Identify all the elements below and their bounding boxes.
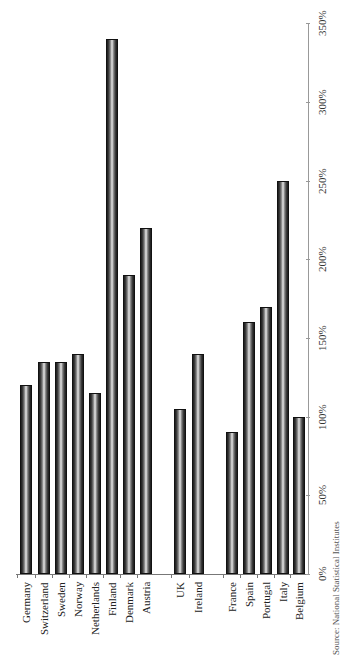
x-tick	[240, 574, 241, 578]
bar-uk	[174, 409, 186, 574]
x-tick	[35, 574, 36, 578]
bar-belgium	[293, 417, 305, 574]
bar-sweden	[55, 362, 67, 574]
x-tick	[223, 574, 224, 578]
x-tick	[290, 574, 291, 578]
category-label: Denmark	[123, 582, 135, 623]
y-tick	[306, 259, 310, 260]
bar-portugal	[260, 307, 272, 574]
bar-finland	[106, 39, 118, 574]
x-tick	[52, 574, 53, 578]
category-label: Norway	[72, 582, 84, 617]
bar-switzerland	[38, 362, 50, 574]
x-tick	[69, 574, 70, 578]
category-label: Switzerland	[38, 582, 50, 635]
x-tick	[17, 574, 18, 578]
category-label: Sweden	[55, 582, 67, 617]
bar-ireland	[192, 354, 204, 574]
y-tick	[306, 23, 310, 24]
y-tick	[306, 574, 310, 575]
y-tick-label: 350%	[316, 11, 328, 37]
y-tick-label: 250%	[316, 168, 328, 194]
bar-germany	[20, 385, 32, 574]
y-tick	[306, 181, 310, 182]
y-tick-label: 200%	[316, 247, 328, 273]
category-label: Portugal	[260, 582, 272, 619]
x-tick	[274, 574, 275, 578]
y-tick-label: 150%	[316, 325, 328, 351]
x-tick	[189, 574, 190, 578]
y-tick-label: 50%	[316, 485, 328, 505]
category-label: Belgium	[293, 582, 305, 620]
x-tick	[137, 574, 138, 578]
bar-spain	[243, 322, 255, 574]
y-tick-label: 300%	[316, 89, 328, 115]
x-tick	[86, 574, 87, 578]
bar-denmark	[123, 275, 135, 574]
category-label: France	[226, 582, 238, 612]
bar-chart: GermanySwitzerlandSwedenNorwayNetherland…	[0, 0, 342, 655]
y-tick	[306, 417, 310, 418]
category-label: Finland	[106, 582, 118, 616]
x-axis-line	[16, 574, 308, 575]
bar-norway	[72, 354, 84, 574]
x-tick	[120, 574, 121, 578]
x-tick	[171, 574, 172, 578]
category-label: Netherlands	[89, 582, 101, 635]
bar-netherlands	[89, 393, 101, 574]
y-tick-label: 0%	[316, 567, 328, 582]
bar-austria	[140, 228, 152, 574]
category-label: Austria	[140, 582, 152, 614]
category-label: Italy	[277, 582, 289, 602]
y-tick	[306, 338, 310, 339]
category-label: Ireland	[192, 582, 204, 613]
category-label: UK	[174, 582, 186, 598]
category-label: Spain	[243, 582, 255, 607]
y-axis-line	[308, 23, 309, 574]
y-tick	[306, 102, 310, 103]
x-tick	[257, 574, 258, 578]
bar-italy	[277, 181, 289, 574]
source-note: Source: National Statistical Institutes	[331, 521, 341, 655]
x-tick	[103, 574, 104, 578]
y-tick-label: 100%	[316, 404, 328, 430]
category-label: Germany	[20, 582, 32, 623]
y-tick	[306, 495, 310, 496]
bar-france	[226, 432, 238, 574]
